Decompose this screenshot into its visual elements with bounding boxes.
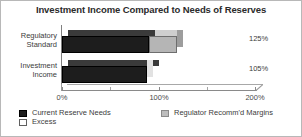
value-label-investment-income: 105% xyxy=(249,64,268,73)
x-axis-label-100: 100% xyxy=(149,93,168,102)
x-tick-minor-150 xyxy=(207,87,208,90)
x-axis-label-200: 200% xyxy=(245,93,264,102)
bar-segment-regulator-margins xyxy=(149,36,177,53)
category-label-regulatory-standard: Regulatory Standard xyxy=(1,31,57,49)
x-tick-minor-50 xyxy=(110,87,111,90)
x-tick-0 xyxy=(62,87,63,91)
category-label-line1: Regulatory xyxy=(1,31,57,40)
plot-area: 0% 100% 200% xyxy=(61,25,207,91)
category-label-line1: Investment xyxy=(1,61,57,70)
value-label-regulatory-standard: 125% xyxy=(249,34,268,43)
legend-label-excess: Excess xyxy=(32,117,56,126)
bar-segment-side-excess xyxy=(147,60,153,77)
axis-depth-right xyxy=(256,84,264,91)
legend-label-regulator-margins: Regulator Recomm'd Margins xyxy=(174,108,273,117)
legend-swatch-black-icon xyxy=(19,110,27,117)
x-tick-100 xyxy=(159,87,160,91)
bar-segment-current-reserve-needs xyxy=(62,66,147,83)
category-label-line2: Standard xyxy=(1,40,57,49)
chart-title: Investment Income Compared to Needs of R… xyxy=(1,4,301,15)
legend-swatch-gray-icon xyxy=(161,110,169,117)
category-label-investment-income: Investment Income xyxy=(1,61,57,79)
bar-segment-current-reserve-needs xyxy=(62,36,149,53)
chart-legend: Current Reserve Needs Excess Regulator R… xyxy=(1,106,301,132)
legend-label-current-reserve-needs: Current Reserve Needs xyxy=(32,108,111,117)
category-label-line2: Income xyxy=(1,70,57,79)
x-tick-200 xyxy=(255,87,256,91)
bar-segment-side-regulator-margins xyxy=(177,30,183,47)
legend-swatch-white-icon xyxy=(19,119,27,126)
x-axis-label-0: 0% xyxy=(57,93,68,102)
x-axis-back-line xyxy=(67,84,263,85)
chart-container: Investment Income Compared to Needs of R… xyxy=(0,0,302,137)
